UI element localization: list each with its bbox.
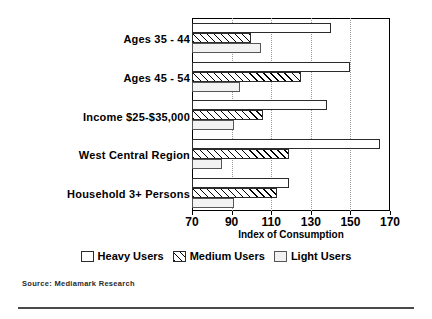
legend-item-light[interactable]: Light Users: [274, 250, 352, 262]
bar-group: [192, 57, 390, 96]
x-tick-label-130: 130: [293, 215, 329, 229]
bar-medium: [192, 110, 263, 120]
category-label: West Central Region: [79, 149, 190, 161]
bar-heavy: [192, 178, 289, 188]
x-tick-label-150: 150: [332, 215, 368, 229]
legend-label: Heavy Users: [98, 250, 164, 262]
bar-light: [192, 198, 234, 208]
x-axis: 7090110130150170: [192, 211, 390, 229]
bar-medium: [192, 188, 277, 198]
bar-group: [192, 18, 390, 57]
legend-swatch-heavy-icon: [81, 251, 94, 262]
chart-figure: Ages 35 - 44Ages 45 - 54Income $25-$35,0…: [0, 0, 432, 319]
legend-swatch-medium-icon: [173, 251, 186, 262]
bar-group: [192, 134, 390, 173]
category-label: Ages 35 - 44: [123, 33, 190, 45]
x-tick-label-90: 90: [214, 215, 250, 229]
bar-light: [192, 43, 261, 53]
bar-group: [192, 95, 390, 134]
category-label: Income $25-$35,000: [83, 111, 190, 123]
legend-label: Light Users: [291, 250, 352, 262]
bar-heavy: [192, 23, 331, 33]
bar-medium: [192, 33, 251, 43]
bar-medium: [192, 72, 301, 82]
category-label: Household 3+ Persons: [67, 188, 190, 200]
x-tick-label-170: 170: [372, 215, 408, 229]
bar-heavy: [192, 139, 380, 149]
x-tick-label-70: 70: [174, 215, 210, 229]
legend-label: Medium Users: [190, 250, 265, 262]
legend-item-heavy[interactable]: Heavy Users: [81, 250, 164, 262]
chart-legend: Heavy UsersMedium UsersLight Users: [0, 250, 432, 262]
x-tick-label-110: 110: [253, 215, 289, 229]
plot-area: [192, 18, 390, 211]
bar-group: [192, 172, 390, 211]
category-axis-labels: Ages 35 - 44Ages 45 - 54Income $25-$35,0…: [0, 18, 190, 211]
legend-item-medium[interactable]: Medium Users: [173, 250, 265, 262]
bar-light: [192, 82, 240, 92]
bar-light: [192, 159, 222, 169]
bar-heavy: [192, 100, 327, 110]
legend-swatch-light-icon: [274, 251, 287, 262]
category-label: Ages 45 - 54: [123, 72, 190, 84]
x-axis-title: Index of Consumption: [192, 229, 390, 240]
footer-divider: [18, 307, 414, 309]
bar-heavy: [192, 62, 350, 72]
bar-light: [192, 120, 234, 130]
bar-medium: [192, 149, 289, 159]
source-note: Source: Mediamark Research: [22, 279, 135, 288]
